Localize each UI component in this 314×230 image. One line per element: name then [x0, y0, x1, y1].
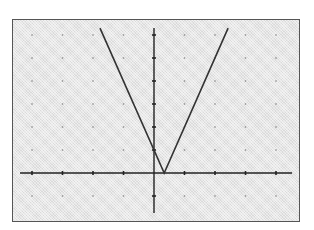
grid-dot [184, 80, 185, 81]
grid-dot [245, 34, 246, 35]
grid-dot [123, 34, 124, 35]
grid-dot [245, 80, 246, 81]
grid-dot [275, 195, 276, 196]
grid-dot [62, 34, 63, 35]
grid-dot [31, 80, 32, 81]
grid-dot [245, 103, 246, 104]
grid-dot [92, 195, 93, 196]
grid-dot [184, 103, 185, 104]
grid-dot [31, 149, 32, 150]
grid-dot [245, 126, 246, 127]
grid-dot [62, 103, 63, 104]
grid-dot [123, 126, 124, 127]
grid-dot [62, 57, 63, 58]
grid-dot [92, 34, 93, 35]
grid-dot [62, 80, 63, 81]
grid-dot [123, 149, 124, 150]
grid-dot [31, 57, 32, 58]
grid-dot [123, 57, 124, 58]
grid-dot [275, 149, 276, 150]
grid-dot [245, 195, 246, 196]
grid-dot [275, 34, 276, 35]
grid-dot [214, 195, 215, 196]
grid-dot [214, 80, 215, 81]
grid-dot [31, 126, 32, 127]
grid-dot [214, 103, 215, 104]
grid-dot [123, 195, 124, 196]
grid-dot [92, 149, 93, 150]
grid-dot [31, 195, 32, 196]
grid-dot [184, 195, 185, 196]
grid-dot [184, 57, 185, 58]
grid-dot [245, 149, 246, 150]
grid-dot [92, 103, 93, 104]
grid-dot [184, 149, 185, 150]
axes [20, 28, 292, 213]
grid-dot [92, 126, 93, 127]
grid-dot [214, 126, 215, 127]
grid-dot [275, 126, 276, 127]
grid-dot [31, 103, 32, 104]
grid-dot [184, 34, 185, 35]
grid-dot [92, 80, 93, 81]
absolute-value-curve [100, 28, 228, 173]
grid-dot [62, 126, 63, 127]
grid-dot [31, 34, 32, 35]
grid-dot [214, 34, 215, 35]
grid-dot [92, 57, 93, 58]
grid-dot [275, 57, 276, 58]
grid-dot [62, 195, 63, 196]
grid-dot [123, 103, 124, 104]
grid-dot [275, 103, 276, 104]
function-plot [0, 0, 314, 230]
grid-dot [275, 80, 276, 81]
grid-dot [62, 149, 63, 150]
grid-dot [245, 57, 246, 58]
grid-dot [214, 149, 215, 150]
